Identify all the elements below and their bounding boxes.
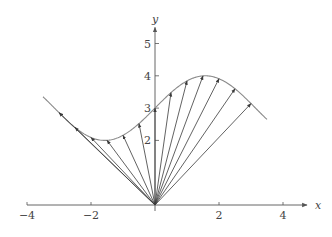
position-vector-arrow — [107, 140, 155, 205]
position-vector-arrow — [155, 93, 171, 205]
y-tick-label: 4 — [144, 70, 151, 83]
position-vector-arrow — [155, 81, 187, 205]
y-tick-label: 5 — [144, 38, 151, 51]
x-tick-label: 2 — [216, 209, 223, 222]
y-axis-label: y — [151, 13, 159, 26]
position-vector-arrow — [155, 76, 203, 205]
y-tick-label: 2 — [144, 134, 151, 147]
x-axis-label: x — [315, 199, 322, 212]
x-tick-label: 4 — [280, 209, 287, 222]
position-vector-arrow — [155, 104, 251, 205]
y-tick-label: 3 — [144, 102, 151, 115]
diagram-canvas: −4−2242345xy — [0, 0, 332, 237]
position-vector-arrow — [155, 89, 235, 205]
x-tick-label: −2 — [83, 209, 99, 222]
position-vector-arrow — [155, 79, 219, 205]
x-tick-label: −4 — [19, 209, 35, 222]
position-vector-arrow — [91, 137, 155, 205]
